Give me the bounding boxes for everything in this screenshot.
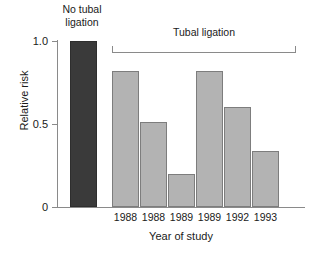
x-axis-tick-label: 1993: [246, 212, 285, 223]
y-axis-tick-label: 1.0: [33, 36, 48, 47]
x-axis-line: [57, 207, 305, 208]
bars-layer: [58, 41, 306, 207]
group-label-tubal-ligation: Tubal ligation: [112, 26, 296, 39]
y-axis-tick: [52, 124, 57, 125]
bar: [224, 107, 251, 207]
group-label-no-tubal-ligation: No tubal ligation: [40, 3, 124, 28]
bar: [112, 71, 139, 207]
bar: [168, 174, 195, 207]
bar: [70, 41, 97, 207]
y-axis-tick-label: 0: [42, 202, 48, 213]
y-axis-tick: [52, 207, 57, 208]
bar: [252, 151, 279, 207]
bar: [196, 71, 223, 207]
y-axis-tick: [52, 41, 57, 42]
relative-risk-bar-chart: No tubal ligation Tubal ligation Relativ…: [0, 0, 316, 258]
y-axis-title: Relative risk: [19, 51, 30, 151]
bar: [140, 122, 167, 207]
y-axis-tick-label: 0.5: [33, 119, 48, 130]
x-axis-title: Year of study: [57, 231, 305, 242]
